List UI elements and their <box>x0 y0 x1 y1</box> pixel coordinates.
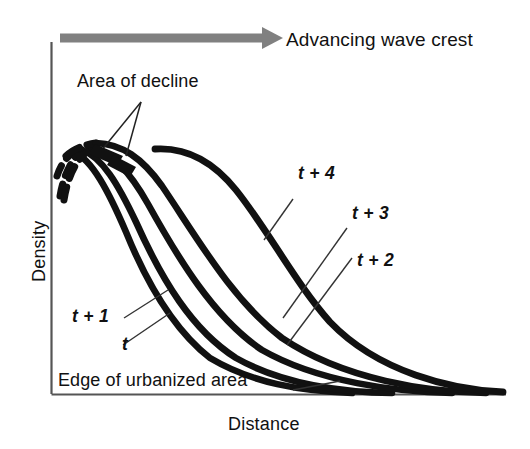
series-label-t4: t + 4 <box>298 165 335 183</box>
advancing-wave-crest-label: Advancing wave crest <box>286 30 473 49</box>
series-label-t: t <box>122 336 128 354</box>
edge-of-urbanized-area-label: Edge of urbanized area <box>58 371 247 389</box>
series-label-t1: t + 1 <box>72 308 109 326</box>
density-gradient-figure: Advancing wave crest Area of decline t +… <box>0 0 530 449</box>
area-of-decline-leader-1 <box>101 102 141 151</box>
leader-t4 <box>264 199 293 240</box>
curve-t2 <box>64 148 452 393</box>
series-label-t2: t + 2 <box>357 252 394 270</box>
advancing-wave-crest-arrow <box>60 27 283 49</box>
leader-t <box>123 313 170 345</box>
y-axis-label: Density <box>30 221 48 282</box>
x-axis-label: Distance <box>228 415 300 433</box>
area-of-decline-label: Area of decline <box>77 72 199 90</box>
series-label-t3: t + 3 <box>352 205 389 223</box>
